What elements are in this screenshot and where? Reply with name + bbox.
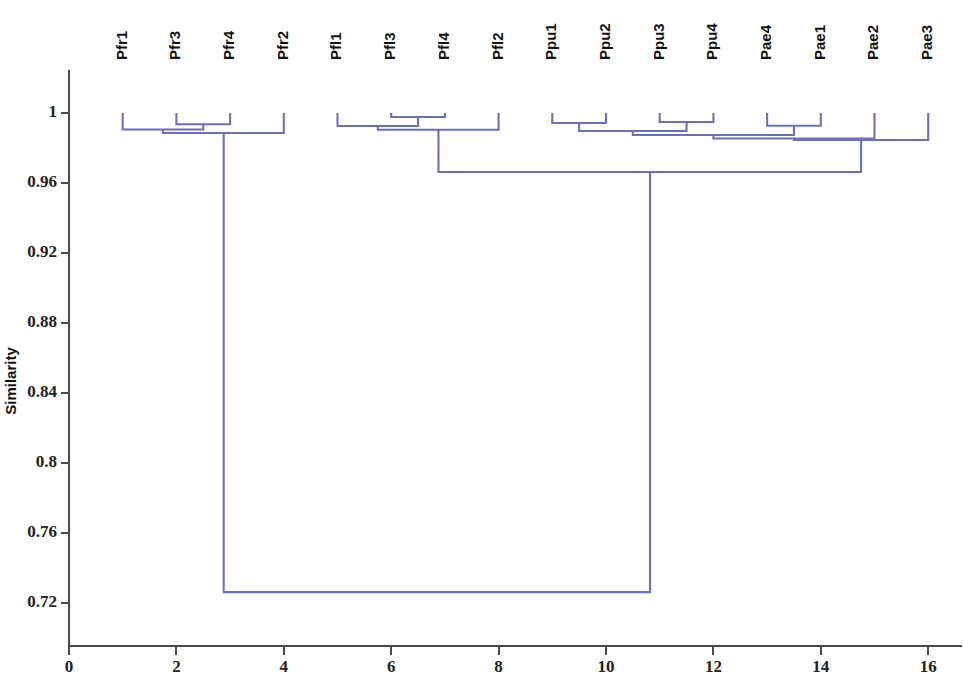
y-tick-label: 0.8 [36, 452, 57, 471]
y-tick-label: 0.72 [27, 592, 57, 611]
dendro-merge-m5 [338, 113, 419, 126]
dendro-merge-m10 [767, 113, 821, 126]
dendro-merge-m2 [123, 113, 204, 129]
x-tick-label: 2 [172, 657, 181, 676]
leaf-label-pfl1: Pfl1 [327, 32, 344, 60]
leaf-label-ppu4: Ppu4 [703, 23, 720, 60]
leaf-label-pfl4: Pfl4 [435, 32, 452, 60]
x-tick-label: 6 [387, 657, 396, 676]
dendro-merge-m15 [224, 133, 650, 592]
x-tick-label: 8 [494, 657, 503, 676]
leaf-labels-group: Pfr1Pfr3Pfr4Pfr2Pfl1Pfl3Pfl4Pfl2Ppu1Ppu2… [113, 23, 936, 60]
x-axis-ticks: 0246810121416 [65, 646, 937, 676]
leaf-label-pae1: Pae1 [811, 25, 828, 60]
x-tick-label: 12 [705, 657, 722, 676]
y-tick-label: 0.92 [27, 242, 57, 261]
dendro-merge-m1 [176, 113, 230, 124]
leaf-label-ppu2: Ppu2 [596, 23, 613, 60]
dendrogram-plot: 10.960.920.880.840.80.760.72 02468101214… [0, 0, 964, 689]
y-tick-label: 0.76 [27, 522, 57, 541]
leaf-label-ppu1: Ppu1 [542, 23, 559, 60]
y-axis-ticks: 10.960.920.880.840.80.760.72 [27, 102, 69, 611]
leaf-label-pfl2: Pfl2 [489, 32, 506, 60]
leaf-label-pfr2: Pfr2 [274, 31, 291, 60]
y-tick-label: 0.96 [27, 172, 57, 191]
leaf-label-pfl3: Pfl3 [381, 32, 398, 60]
y-tick-label: 1 [49, 102, 58, 121]
leaf-label-pae4: Pae4 [757, 24, 774, 60]
leaf-label-pae2: Pae2 [864, 25, 881, 60]
leaf-label-pae3: Pae3 [918, 25, 935, 60]
dendrogram-figure: 10.960.920.880.840.80.760.72 02468101214… [0, 0, 964, 689]
y-tick-label: 0.88 [27, 312, 57, 331]
leaf-label-pfr1: Pfr1 [113, 31, 130, 60]
y-tick-label: 0.84 [27, 382, 57, 401]
y-axis-title: Similarity [2, 347, 19, 415]
leaf-label-pfr3: Pfr3 [166, 31, 183, 60]
x-tick-label: 16 [920, 657, 937, 676]
dendro-merge-m4 [391, 113, 445, 117]
x-tick-label: 0 [65, 657, 74, 676]
dendro-merge-m14 [438, 130, 861, 172]
leaf-label-pfr4: Pfr4 [220, 30, 237, 60]
x-tick-label: 10 [598, 657, 615, 676]
x-tick-label: 4 [280, 657, 289, 676]
dendrogram-lines-group [123, 113, 929, 592]
dendro-merge-m7 [552, 113, 606, 123]
x-tick-label: 14 [812, 657, 830, 676]
leaf-label-ppu3: Ppu3 [650, 23, 667, 60]
axes-group [69, 70, 962, 646]
dendro-merge-m6 [378, 113, 499, 130]
dendro-merge-m8 [660, 113, 714, 122]
